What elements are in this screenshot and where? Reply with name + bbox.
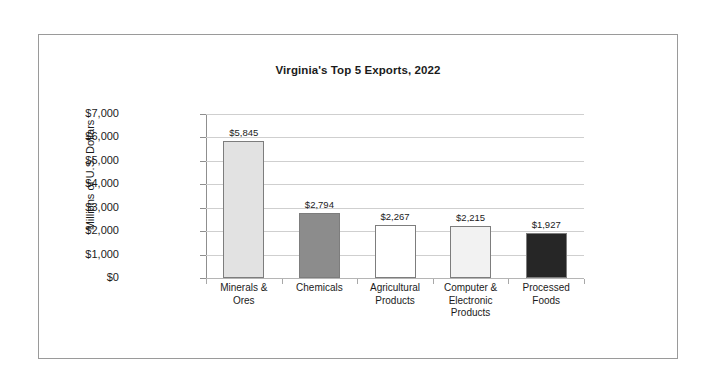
y-axis-tick-label: $4,000 [41, 177, 119, 189]
chart-frame: Virginia's Top 5 Exports, 2022 Millions … [38, 34, 678, 359]
y-axis-tick-label: $3,000 [41, 201, 119, 213]
bar [375, 225, 416, 278]
x-axis-category-label: ProcessedFoods [501, 282, 591, 307]
y-axis-tick-label: $7,000 [41, 107, 119, 119]
x-axis-category-label-line: Products [426, 307, 516, 320]
bar-value-label: $5,845 [204, 127, 284, 138]
x-axis-category-label-line: Foods [501, 295, 591, 308]
y-axis-tick-label: $1,000 [41, 248, 119, 260]
x-axis-category-label-line: Ores [199, 295, 289, 308]
y-axis-tick-label: $5,000 [41, 154, 119, 166]
bar [223, 141, 264, 278]
bar-value-label: $2,215 [431, 212, 511, 223]
plot-area: $5,845$2,794$2,267$2,215$1,927 [206, 114, 584, 278]
bar [450, 226, 491, 278]
bar-value-label: $1,927 [506, 219, 586, 230]
bar-value-label: $2,267 [355, 211, 435, 222]
y-axis-tick-label: $0 [41, 271, 119, 283]
y-axis-tick-label: $6,000 [41, 130, 119, 142]
bar [299, 213, 340, 278]
chart-title: Virginia's Top 5 Exports, 2022 [39, 64, 677, 76]
x-axis-category-label-line: Processed [501, 282, 591, 295]
bar [526, 233, 567, 278]
gridline [206, 114, 584, 115]
gridline [206, 278, 584, 279]
bar-value-label: $2,794 [279, 199, 359, 210]
y-axis-tick-label: $2,000 [41, 224, 119, 236]
